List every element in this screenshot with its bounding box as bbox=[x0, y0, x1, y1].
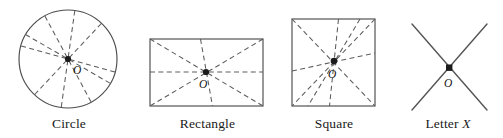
geometry-figure-panel: O O O O bbox=[0, 0, 503, 138]
circle-center-point bbox=[65, 56, 71, 62]
rectangle-center-label: O bbox=[199, 78, 208, 90]
square-center-label: O bbox=[328, 68, 337, 80]
shape-circle: O bbox=[19, 10, 117, 108]
caption-circle: Circle bbox=[0, 117, 138, 131]
caption-letter-x-prefix: Letter bbox=[425, 116, 462, 131]
square-center-point bbox=[331, 58, 338, 65]
caption-letter-x-glyph: X bbox=[462, 116, 470, 131]
shape-letter-x: O bbox=[412, 24, 487, 110]
caption-letter-x: Letter X bbox=[393, 117, 503, 131]
caption-rectangle: Rectangle bbox=[140, 117, 275, 131]
letter-x-center-point bbox=[446, 65, 452, 71]
caption-square: Square bbox=[276, 117, 392, 131]
circle-center-label: O bbox=[73, 64, 82, 76]
shape-square: O bbox=[292, 19, 375, 106]
letter-x-center-label: O bbox=[444, 77, 453, 89]
rectangle-center-point bbox=[203, 69, 209, 75]
shape-rectangle: O bbox=[150, 39, 263, 106]
